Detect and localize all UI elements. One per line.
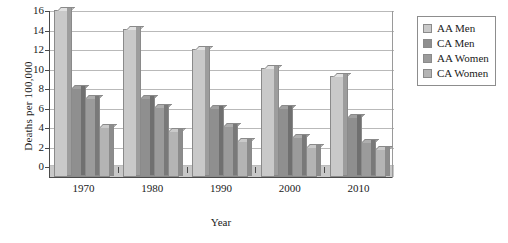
bar-side-face xyxy=(316,144,321,177)
bar-chart: Deaths per 100,000 0246810121416 Year AA… xyxy=(0,0,508,243)
plot-right-border xyxy=(392,11,393,178)
bar-side-face xyxy=(67,7,72,176)
bar-side-face xyxy=(205,46,210,176)
bar-side-face xyxy=(164,104,169,176)
x-axis-tick-label: 1980 xyxy=(117,182,187,194)
x-axis-tick-label: 1990 xyxy=(186,182,256,194)
bar-side-face xyxy=(178,128,183,176)
bar-side-face xyxy=(219,105,224,177)
legend-item: AA Women xyxy=(423,51,489,66)
legend: AA Men CA Men AA Women CA Women xyxy=(417,16,496,86)
legend-label: AA Women xyxy=(437,53,489,64)
legend-item: AA Men xyxy=(423,21,489,36)
x-axis-tick xyxy=(255,167,256,173)
y-axis-tick-label: 10 xyxy=(20,64,44,75)
bar-group xyxy=(261,10,317,177)
legend-label: CA Women xyxy=(437,68,488,79)
bar-group xyxy=(330,10,386,177)
bar-side-face xyxy=(343,73,348,176)
y-axis-tick xyxy=(45,109,50,110)
bar-side-face xyxy=(247,138,252,176)
x-axis-tick xyxy=(324,167,325,173)
bar-side-face xyxy=(95,95,100,176)
bar-side-face xyxy=(274,65,279,176)
bar-side-face xyxy=(288,105,293,177)
x-axis-title: Year xyxy=(48,216,394,228)
legend-swatch-aa-women xyxy=(423,54,432,63)
legend-item: CA Men xyxy=(423,36,489,51)
bar-side-face xyxy=(136,26,141,176)
legend-label: CA Men xyxy=(437,38,475,49)
bar xyxy=(261,68,275,177)
legend-swatch-ca-women xyxy=(423,69,432,78)
y-axis-tick-label: 8 xyxy=(20,83,44,94)
bar xyxy=(192,49,206,177)
x-axis-tick xyxy=(118,167,119,173)
x-axis-tick-label: 2010 xyxy=(324,182,394,194)
y-axis-tick-label: 14 xyxy=(20,25,44,36)
bar-group xyxy=(54,10,110,177)
bar xyxy=(123,29,137,177)
y-axis-tick-label: 2 xyxy=(20,142,44,153)
y-axis-tick xyxy=(45,128,50,129)
bar-group xyxy=(123,10,179,177)
plot-area: 0246810121416 xyxy=(49,11,393,178)
bar-side-face xyxy=(302,134,307,176)
y-axis-tick-label: 4 xyxy=(20,122,44,133)
y-axis-tick xyxy=(45,31,50,32)
bar-side-face xyxy=(233,123,238,176)
x-axis-tick-label: 2000 xyxy=(255,182,325,194)
bar-side-face xyxy=(150,95,155,176)
bar-side-face xyxy=(81,85,86,176)
legend-swatch-aa-men xyxy=(423,24,432,33)
y-axis-tick xyxy=(45,89,50,90)
y-axis-tick xyxy=(45,50,50,51)
y-axis-tick-label: 6 xyxy=(20,103,44,114)
y-axis-tick xyxy=(45,11,50,12)
bar-side-face xyxy=(371,139,376,176)
x-axis-tick xyxy=(187,167,188,173)
y-axis-tick xyxy=(45,70,50,71)
bar-side-face xyxy=(385,146,390,176)
y-axis-tick-label: 16 xyxy=(20,5,44,16)
bar xyxy=(54,10,68,177)
bar-group xyxy=(192,10,248,177)
bar xyxy=(330,76,344,177)
y-axis-tick-label: 12 xyxy=(20,44,44,55)
x-axis-tick-label: 1970 xyxy=(48,182,118,194)
y-axis-tick xyxy=(45,148,50,149)
y-axis-tick xyxy=(45,167,50,168)
y-axis-tick-label: 0 xyxy=(20,161,44,172)
bar-side-face xyxy=(109,124,114,176)
legend-label: AA Men xyxy=(437,23,475,34)
legend-item: CA Women xyxy=(423,66,489,81)
bar-side-face xyxy=(357,114,362,176)
legend-swatch-ca-men xyxy=(423,39,432,48)
